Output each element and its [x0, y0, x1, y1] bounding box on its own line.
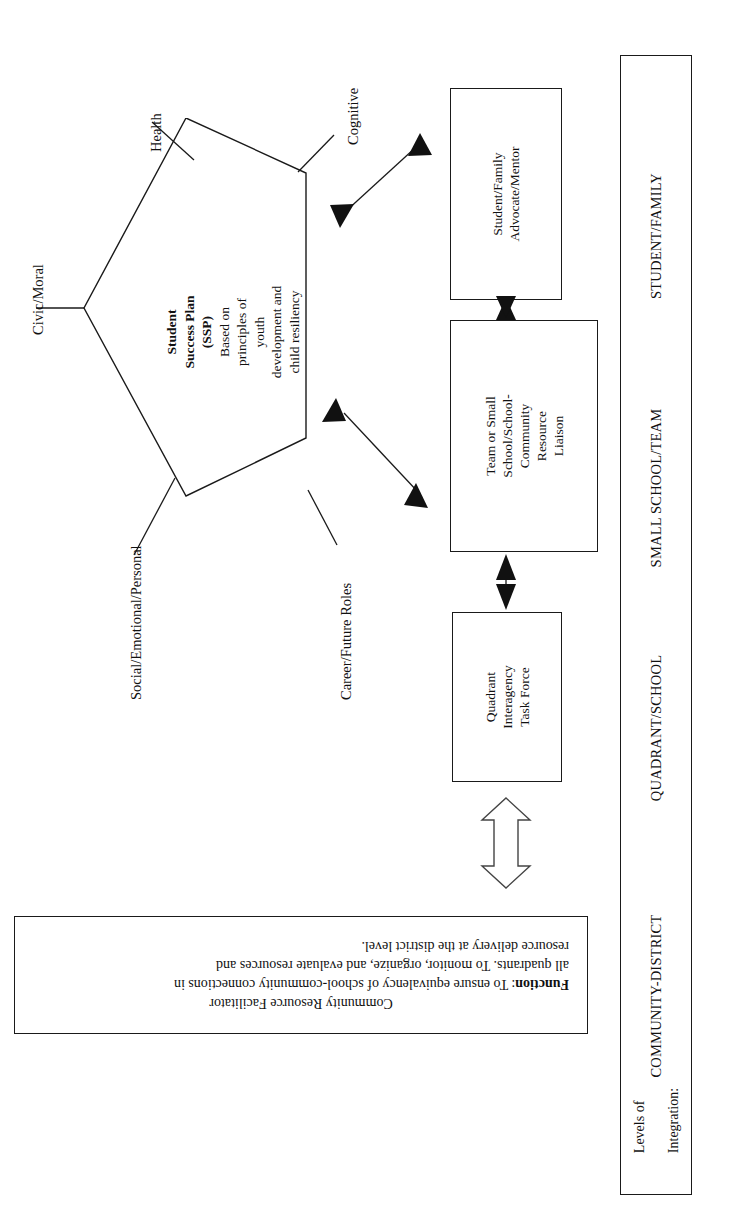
pentagon-title-line-2: Success Plan: [181, 227, 199, 437]
pentagon-title-line-1: Student: [163, 227, 181, 437]
level-quadrant-school: QUADRANT/SCHOOL: [648, 655, 665, 801]
facilitator-function-line-1: Function: To ensure equivalency of schoo…: [29, 975, 573, 994]
facilitator-title: Community Resource Facilitator: [29, 994, 573, 1013]
levels-of-integration-caption: Levels of Integration:: [614, 1088, 699, 1174]
facilitator-function-label: Function: [515, 977, 569, 992]
levels-caption-line-2: Integration:: [666, 1088, 681, 1153]
level-community-district: COMMUNITY-DISTRICT: [648, 914, 665, 1077]
facilitator-function-line-3: resource delivery at the district level.: [29, 937, 573, 956]
facilitator-function-text-1: : To ensure equivalency of school-commun…: [174, 977, 515, 992]
box-student-family-advocate: Student/Family Advocate/Mentor: [450, 88, 562, 300]
pentagon-body-line-5: child resiliency: [286, 227, 304, 437]
community-resource-facilitator-box: Community Resource Facilitator Function:…: [14, 916, 588, 1034]
pentagon-body-line-2: principles of: [233, 227, 251, 437]
level-student-family: STUDENT/FAMILY: [648, 173, 665, 299]
pentagon-text-block: Student Success Plan (SSP) Based on prin…: [163, 227, 303, 437]
box-student-family-advocate-label: Student/Family Advocate/Mentor: [489, 146, 523, 241]
box-quadrant-interagency-task-force: Quadrant Interagency Task Force: [452, 612, 562, 782]
pentagon-title-line-3: (SSP): [198, 227, 216, 437]
spoke-label-cognitive: Cognitive: [345, 88, 362, 145]
level-small-school-team: SMALL SCHOOL/TEAM: [648, 409, 665, 568]
spoke-label-career-future-roles: Career/Future Roles: [338, 583, 355, 700]
box-team-small-school-liaison-label: Team or Small School/School- Community R…: [482, 394, 567, 477]
levels-caption-line-1: Levels of: [632, 1101, 647, 1153]
spoke-label-civic-moral: Civic/Moral: [30, 264, 47, 335]
connector-task-force-to-facilitator: [482, 798, 530, 888]
connector-liaison-to-task-force: [496, 554, 516, 610]
diagram-canvas: Student Success Plan (SSP) Based on prin…: [0, 0, 732, 1230]
spoke-label-health: Health: [148, 113, 165, 152]
levels-of-integration-bar: Levels of Integration: COMMUNITY-DISTRIC…: [620, 55, 692, 1195]
pentagon-body-line-1: Based on: [216, 227, 234, 437]
box-quadrant-interagency-task-force-label: Quadrant Interagency Task Force: [482, 665, 533, 729]
spoke-label-social-emotional-personal: Social/Emotional/Personal: [128, 545, 145, 700]
pentagon-body-line-4: development and: [268, 227, 286, 437]
box-team-small-school-liaison: Team or Small School/School- Community R…: [450, 320, 598, 552]
facilitator-function-line-2: all quadrants. To monitor, organize, and…: [29, 956, 573, 975]
pentagon-body-line-3: youth: [251, 227, 269, 437]
